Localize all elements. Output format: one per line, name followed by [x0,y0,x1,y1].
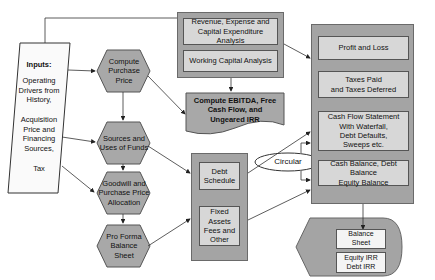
working-capital-analysis[interactable]: Working Capital Analysis [183,50,278,72]
schedule-group: Debt Schedule Fixed Assets Fees and Othe… [191,153,248,261]
balance-sheet-output[interactable]: Balance Sheet [336,229,386,249]
circular-label: Circular [255,155,321,169]
inputs-list: Operating Drivers from History, Acquisit… [12,76,66,174]
hexagon-label-goodwill[interactable]: Goodwill and Purchase Price Allocation [96,172,152,214]
hexagon-label-sources-uses[interactable]: Sources and Uses of Funds [97,122,151,164]
equity-debt-irr-output[interactable]: Equity IRR Debt IRR [336,252,386,273]
inputs-block: Inputs: Operating Drivers from History, … [12,60,66,190]
debt-schedule[interactable]: Debt Schedule [199,162,240,190]
cash-flow-statement[interactable]: Cash Flow Statement With Waterfall, Debt… [318,111,409,151]
profit-and-loss[interactable]: Profit and Loss [318,36,409,60]
hexagon-label-compute-purchase-price[interactable]: Compute Purchase Price [99,50,149,92]
compute-ebitda-label[interactable]: Compute EBITDA, Free Cash Flow, and Unge… [186,95,284,125]
cash-debt-equity-balance[interactable]: Cash Balance, Debt Balance Equity Balanc… [318,160,409,186]
analysis-group: Revenue, Expense and Capital Expenditure… [177,12,284,78]
statements-group: Profit and Loss Taxes Paid and Taxes Def… [311,24,414,204]
taxes-paid-deferred[interactable]: Taxes Paid and Taxes Deferred [318,71,409,98]
hexagon-label-pro-forma[interactable]: Pro Forma Balance Sheet [99,225,149,267]
revenue-expense-capex-analysis[interactable]: Revenue, Expense and Capital Expenditure… [183,18,278,45]
inputs-heading: Inputs: [12,60,66,70]
fixed-assets-fees-other[interactable]: Fixed Assets Fees and Other [199,206,240,246]
